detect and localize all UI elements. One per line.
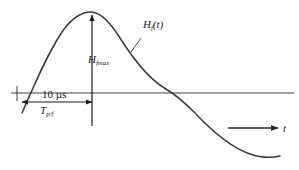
rise-time-label: Tp/f [40,105,53,116]
time-axis-symbol: t [283,122,286,134]
waveform-curve [22,12,280,157]
waveform-figure: Hf(t) Hfmax 10 µs Tp/f t [0,0,299,170]
time-axis-label: t [283,123,286,134]
peak-amplitude-subscript: fmax [96,59,109,66]
rise-time-subscript: p/f [46,110,53,117]
curve-label-base: H [143,18,151,30]
curve-label-argument: (t) [153,18,163,30]
curve-label-leader [131,38,141,52]
peak-amplitude-label: Hfmax [88,54,109,65]
curve-label: Hf(t) [143,19,163,30]
curve-label-subscript: f [151,24,153,31]
duration-label: 10 µs [42,89,66,100]
peak-amplitude-base: H [88,53,96,65]
